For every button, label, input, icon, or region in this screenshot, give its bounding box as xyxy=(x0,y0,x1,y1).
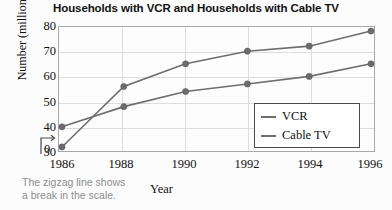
data-point xyxy=(306,43,312,49)
x-axis-title: Year xyxy=(150,182,173,197)
chart-caption: The zigzag line shows a break in the sca… xyxy=(22,176,125,201)
chart-title: Households with VCR and Households with … xyxy=(0,2,392,14)
x-tick-1994: 1994 xyxy=(287,157,333,172)
data-point xyxy=(121,104,127,110)
x-tick-1990: 1990 xyxy=(161,157,207,172)
y-tick-70: 70 xyxy=(30,45,56,57)
x-tick-1996: 1996 xyxy=(347,157,392,172)
legend-swatch-cable-tv xyxy=(261,135,276,137)
chart-legend: VCR Cable TV xyxy=(254,103,360,148)
data-point xyxy=(244,48,250,54)
legend-item-vcr[interactable]: VCR xyxy=(261,107,359,126)
data-point xyxy=(368,28,374,34)
legend-swatch-vcr xyxy=(261,116,276,118)
y-tick-50: 50 xyxy=(30,96,56,108)
data-point xyxy=(306,73,312,79)
y-tick-80: 80 xyxy=(30,20,56,32)
data-point xyxy=(244,81,250,87)
data-point xyxy=(368,61,374,67)
x-tick-1986: 1986 xyxy=(39,157,85,172)
chart-page: Households with VCR and Households with … xyxy=(0,0,392,210)
data-point xyxy=(59,124,65,130)
y-axis-zero-label: 0 xyxy=(44,142,50,157)
legend-label-vcr: VCR xyxy=(282,109,308,124)
x-tick-1992: 1992 xyxy=(224,157,270,172)
legend-item-cable-tv[interactable]: Cable TV xyxy=(261,126,359,145)
y-tick-40: 40 xyxy=(30,121,56,133)
data-point xyxy=(183,88,189,94)
data-point xyxy=(183,61,189,67)
x-axis-tick-labels: 1986 1988 1990 1992 1994 1996 xyxy=(58,157,375,173)
x-tick-1988: 1988 xyxy=(98,157,144,172)
y-tick-60: 60 xyxy=(30,70,56,82)
legend-label-cable-tv: Cable TV xyxy=(282,128,331,143)
data-point xyxy=(121,83,127,89)
